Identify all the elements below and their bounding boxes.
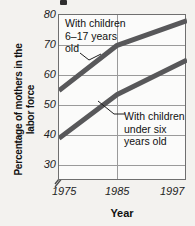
annotation-children-6-17: With children 6–17 years old: [65, 17, 126, 55]
top-edge-artifact: [60, 0, 67, 5]
x-tick-1985: 1985: [105, 186, 129, 197]
chart-figure: 80 70 60 50 40 30 With children 6–17 yea…: [0, 0, 195, 226]
y-axis-title: Percentage of mothers in the labor force: [13, 40, 36, 180]
x-axis-title: Year: [58, 207, 186, 219]
y-tick-80: 80: [30, 9, 56, 20]
x-tick-1997: 1997: [160, 186, 184, 197]
annotation-children-under-six: With children under six years old: [124, 110, 185, 148]
x-tick-1975: 1975: [52, 186, 76, 197]
